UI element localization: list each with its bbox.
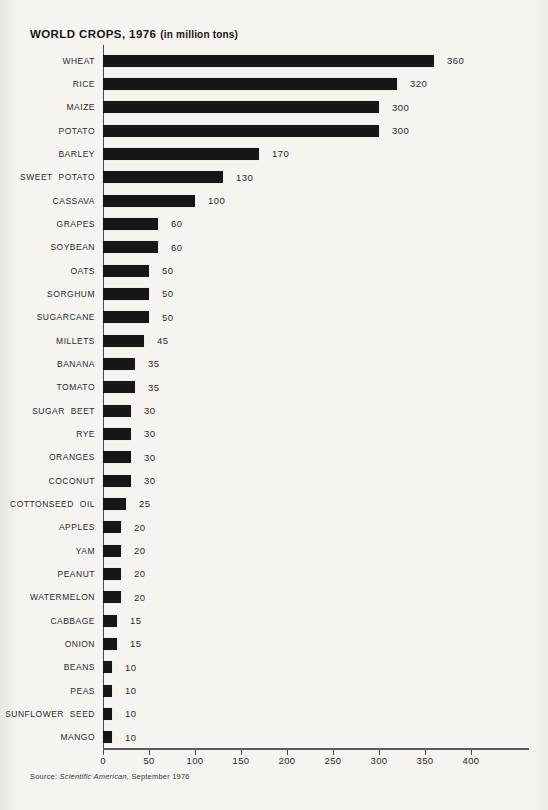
chart-row: APPLES20 xyxy=(0,516,548,539)
chart-row: MILLETS45 xyxy=(0,329,548,352)
x-axis-tick-label: 300 xyxy=(371,755,388,766)
category-label: SUGARCANE xyxy=(0,312,95,322)
bar xyxy=(103,55,434,67)
value-label: 15 xyxy=(130,615,142,626)
value-label: 20 xyxy=(134,568,146,579)
category-label: BARLEY xyxy=(0,149,95,159)
value-label: 300 xyxy=(392,125,409,136)
category-label: COTTONSEED OIL xyxy=(0,499,95,509)
category-label: COCONUT xyxy=(0,476,95,486)
bar xyxy=(103,335,144,347)
bar xyxy=(103,591,121,603)
chart-row: BANANA35 xyxy=(0,352,548,375)
chart-title-unit: (in million tons) xyxy=(160,29,238,40)
chart-row: RYE30 xyxy=(0,422,548,445)
source-publication: Scientific American, xyxy=(60,772,130,781)
category-label: MILLETS xyxy=(0,336,95,346)
chart-row: PEAS10 xyxy=(0,679,548,702)
value-label: 30 xyxy=(144,405,156,416)
bar xyxy=(103,521,121,533)
value-label: 50 xyxy=(162,288,174,299)
value-label: 10 xyxy=(125,708,137,719)
bar xyxy=(103,78,397,90)
category-label: WHEAT xyxy=(0,56,95,66)
x-axis-tick-label: 0 xyxy=(100,755,106,766)
value-label: 20 xyxy=(134,522,146,533)
bar xyxy=(103,498,126,510)
category-label: ORANGES xyxy=(0,452,95,462)
value-label: 50 xyxy=(162,312,174,323)
value-label: 130 xyxy=(236,172,253,183)
category-label: CASSAVA xyxy=(0,196,95,206)
value-label: 45 xyxy=(157,335,169,346)
bar-rows: WHEAT360RICE320MAIZE300POTATO300BARLEY17… xyxy=(0,49,548,749)
chart-row: TOMATO35 xyxy=(0,376,548,399)
bar xyxy=(103,381,135,393)
x-axis-tick-label: 350 xyxy=(417,755,434,766)
bar xyxy=(103,661,112,673)
category-label: GRAPES xyxy=(0,219,95,229)
bar xyxy=(103,218,158,230)
value-label: 300 xyxy=(392,102,409,113)
bar xyxy=(103,568,121,580)
x-axis-line xyxy=(103,748,529,750)
world-crops-chart-page: WORLD CROPS, 1976(in million tons) WHEAT… xyxy=(0,0,548,810)
bar xyxy=(103,195,195,207)
category-label: TOMATO xyxy=(0,382,95,392)
chart-row: SOYBEAN60 xyxy=(0,236,548,259)
bar xyxy=(103,148,259,160)
category-label: SUNFLOWER SEED xyxy=(0,709,95,719)
bar xyxy=(103,731,112,743)
bar xyxy=(103,241,158,253)
chart-row: WATERMELON20 xyxy=(0,586,548,609)
bar xyxy=(103,428,131,440)
chart-row: SORGHUM50 xyxy=(0,282,548,305)
chart-row: BEANS10 xyxy=(0,656,548,679)
value-label: 15 xyxy=(130,638,142,649)
value-label: 35 xyxy=(148,382,160,393)
bar xyxy=(103,405,131,417)
value-label: 10 xyxy=(125,732,137,743)
source-note: Source: Scientific American, September 1… xyxy=(30,772,190,781)
chart-row: CABBAGE15 xyxy=(0,609,548,632)
value-label: 60 xyxy=(171,218,183,229)
chart-row: RICE320 xyxy=(0,72,548,95)
chart-row: SWEET POTATO130 xyxy=(0,166,548,189)
value-label: 25 xyxy=(139,498,151,509)
chart-row: YAM20 xyxy=(0,539,548,562)
chart-row: SUGAR BEET30 xyxy=(0,399,548,422)
chart-row: SUNFLOWER SEED10 xyxy=(0,702,548,725)
bar xyxy=(103,101,379,113)
category-label: PEANUT xyxy=(0,569,95,579)
bar xyxy=(103,685,112,697)
value-label: 60 xyxy=(171,242,183,253)
bar xyxy=(103,451,131,463)
chart-row: SUGARCANE50 xyxy=(0,306,548,329)
x-axis-tick-label: 50 xyxy=(143,755,154,766)
bar xyxy=(103,358,135,370)
category-label: RICE xyxy=(0,79,95,89)
value-label: 20 xyxy=(134,592,146,603)
category-label: APPLES xyxy=(0,522,95,532)
x-axis-tick-label: 150 xyxy=(233,755,250,766)
value-label: 320 xyxy=(410,78,427,89)
chart-row: BARLEY170 xyxy=(0,142,548,165)
category-label: WATERMELON xyxy=(0,592,95,602)
category-label: MANGO xyxy=(0,732,95,742)
chart-row: OATS50 xyxy=(0,259,548,282)
bar xyxy=(103,545,121,557)
category-label: SOYBEAN xyxy=(0,242,95,252)
category-label: RYE xyxy=(0,429,95,439)
chart-title: WORLD CROPS, 1976(in million tons) xyxy=(30,24,238,42)
bar xyxy=(103,288,149,300)
chart-row: ORANGES30 xyxy=(0,446,548,469)
chart-row: ONION15 xyxy=(0,632,548,655)
value-label: 30 xyxy=(144,428,156,439)
source-prefix: Source: xyxy=(30,772,60,781)
bar xyxy=(103,475,131,487)
category-label: POTATO xyxy=(0,126,95,136)
value-label: 30 xyxy=(144,475,156,486)
x-axis-tick-label: 100 xyxy=(187,755,204,766)
value-label: 20 xyxy=(134,545,146,556)
bar xyxy=(103,638,117,650)
